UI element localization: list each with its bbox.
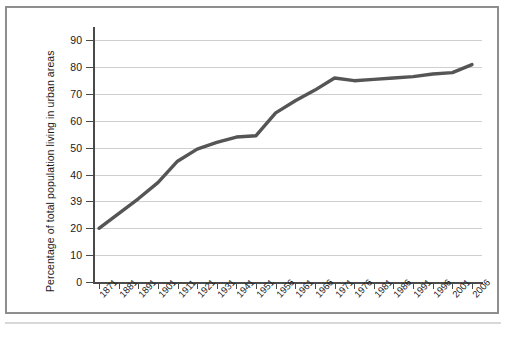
- y-tick-label: 90: [54, 35, 82, 45]
- y-tick-mark: [86, 175, 93, 176]
- gridline: [93, 255, 482, 256]
- y-tick-label: 0: [54, 277, 82, 287]
- y-tick-mark: [86, 94, 93, 95]
- y-tick-mark: [86, 40, 93, 41]
- gridline: [93, 201, 482, 202]
- y-tick-label: 10: [54, 250, 82, 260]
- gridline: [93, 67, 482, 68]
- y-tick-mark: [86, 67, 93, 68]
- gridline: [93, 228, 482, 229]
- y-tick-label: 70: [54, 89, 82, 99]
- gridline: [93, 40, 482, 41]
- y-tick-label: 20: [54, 223, 82, 233]
- gridline: [93, 121, 482, 122]
- y-tick-mark: [86, 228, 93, 229]
- y-tick-mark: [86, 255, 93, 256]
- y-tick-label: 80: [54, 62, 82, 72]
- y-tick-label: 50: [54, 143, 82, 153]
- y-tick-mark: [86, 201, 93, 202]
- y-tick-mark: [86, 148, 93, 149]
- gridline: [93, 148, 482, 149]
- y-tick-label: 39: [54, 196, 82, 206]
- y-tick-mark: [86, 282, 93, 283]
- scan-edge-artifact: [5, 322, 501, 324]
- y-tick-label: 40: [54, 170, 82, 180]
- gridline: [93, 175, 482, 176]
- chart-figure: Percentage of total population living in…: [0, 0, 509, 339]
- y-tick-mark: [86, 121, 93, 122]
- gridline: [93, 94, 482, 95]
- y-axis-line: [93, 27, 95, 283]
- plot-area: [93, 27, 482, 282]
- y-tick-label: 60: [54, 116, 82, 126]
